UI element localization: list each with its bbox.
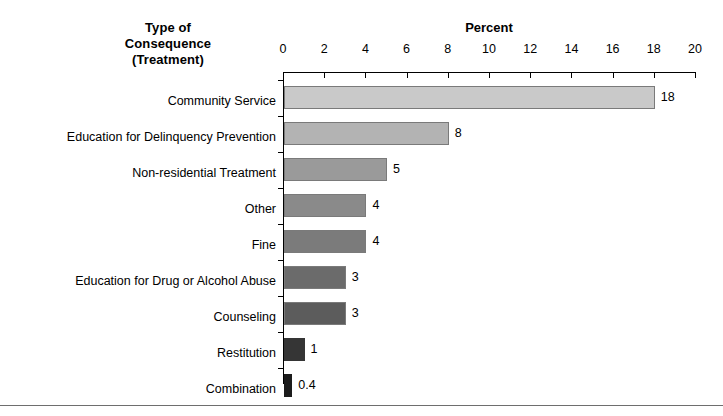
value-axis-tick-mark	[489, 72, 490, 78]
category-label: Education for Drug or Alcohol Abuse	[10, 269, 276, 293]
bar-row: Restitution1	[0, 337, 723, 373]
category-label: Non-residential Treatment	[10, 161, 276, 185]
category-label: Other	[10, 197, 276, 221]
bar-value-label: 4	[372, 230, 379, 253]
category-axis-title-line-1: Type of	[60, 20, 276, 36]
category-axis-title: Type of Consequence (Treatment)	[60, 20, 276, 68]
category-axis-tick-mark	[278, 260, 283, 261]
bar-row: Education for Drug or Alcohol Abuse3	[0, 265, 723, 301]
category-axis-title-line-2: Consequence	[60, 36, 276, 52]
footer-divider	[0, 405, 723, 406]
category-label: Restitution	[10, 341, 276, 365]
bar	[284, 230, 366, 253]
bar	[284, 158, 387, 181]
value-axis-tick-label: 4	[345, 42, 385, 56]
category-axis-tick-mark	[278, 116, 283, 117]
category-axis-tick-mark	[278, 188, 283, 189]
bar	[284, 266, 346, 289]
bar-row: Fine4	[0, 229, 723, 265]
value-axis-tick-mark	[324, 72, 325, 78]
category-label: Counseling	[10, 305, 276, 329]
value-axis-tick-mark	[407, 72, 408, 78]
value-axis-tick-label: 8	[428, 42, 468, 56]
bar-value-label: 0.4	[298, 374, 315, 397]
value-axis-tick-mark	[695, 72, 696, 78]
bar-row: Education for Delinquency Prevention8	[0, 121, 723, 157]
bar	[284, 302, 346, 325]
bar-value-label: 4	[372, 194, 379, 217]
value-axis-tick-label: 14	[551, 42, 591, 56]
bar	[284, 86, 655, 109]
bar-value-label: 3	[352, 302, 359, 325]
value-axis-tick-mark	[613, 72, 614, 78]
bar-value-label: 18	[661, 86, 675, 109]
bar	[284, 194, 366, 217]
category-label: Fine	[10, 233, 276, 257]
value-axis-tick-label: 18	[634, 42, 674, 56]
category-label: Combination	[10, 377, 276, 401]
value-axis-tick-mark	[448, 72, 449, 78]
bar-chart: Type of Consequence (Treatment) Percent …	[0, 0, 723, 416]
category-axis-tick-mark	[278, 368, 283, 369]
value-axis-tick-mark	[365, 72, 366, 78]
category-axis-tick-mark	[278, 296, 283, 297]
category-axis-tick-mark	[278, 332, 283, 333]
bar-value-label: 3	[352, 266, 359, 289]
category-axis-tick-mark	[278, 80, 283, 81]
bar-value-label: 5	[393, 158, 400, 181]
bar-row: Non-residential Treatment5	[0, 157, 723, 193]
bar	[284, 374, 292, 397]
value-axis-tick-label: 12	[510, 42, 550, 56]
bar-row: Other4	[0, 193, 723, 229]
value-axis-tick-label: 20	[675, 42, 715, 56]
value-axis-title: Percent	[283, 20, 695, 36]
bar-value-label: 1	[311, 338, 318, 361]
value-axis-tick-label: 16	[593, 42, 633, 56]
value-axis-tick-mark	[654, 72, 655, 78]
value-axis-tick-mark	[571, 72, 572, 78]
value-axis-tick-label: 6	[387, 42, 427, 56]
bar-row: Counseling3	[0, 301, 723, 337]
value-axis-tick-label: 2	[304, 42, 344, 56]
bar	[284, 338, 305, 361]
value-axis-tick-label: 0	[263, 42, 303, 56]
category-axis-title-line-3: (Treatment)	[60, 52, 276, 68]
category-axis-tick-mark	[278, 224, 283, 225]
category-label: Education for Delinquency Prevention	[10, 125, 276, 149]
bar-row: Combination0.4	[0, 373, 723, 409]
bar	[284, 122, 449, 145]
value-axis-tick-mark	[283, 72, 284, 78]
bar-value-label: 8	[455, 122, 462, 145]
value-axis-tick-mark	[530, 72, 531, 78]
value-axis-tick-label: 10	[469, 42, 509, 56]
category-axis-tick-mark	[278, 152, 283, 153]
bar-row: Community Service18	[0, 85, 723, 121]
category-label: Community Service	[10, 89, 276, 113]
